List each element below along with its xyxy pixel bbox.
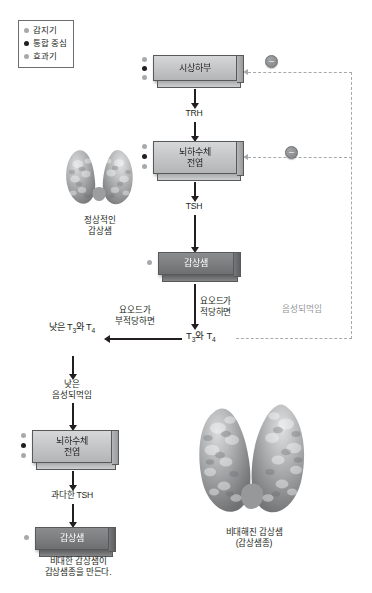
trh-label: TRH: [164, 108, 224, 119]
feedback-line-mid: [248, 157, 352, 158]
hypothalamus-effector-dot-icon: [142, 75, 147, 80]
thyroid2-effector-dot-icon: [24, 535, 29, 540]
legend-label-integration-center: 통합 중심: [33, 39, 66, 48]
feedback-line-bottom: [236, 338, 352, 339]
thyroid2-side-face: [109, 527, 116, 552]
iodine-adequate-line2: 적당하면: [200, 307, 262, 318]
pituitary2-node[interactable]: 뇌하수체 전엽: [32, 430, 112, 463]
legend: 감지기 통합 중심 효과기: [18, 20, 74, 68]
goiter-caption-line1: 비대한 갑상샘이: [14, 556, 142, 567]
iodine-adequate-label: 요오드가 적당하면: [200, 296, 262, 317]
legend-item-effector: 효과기: [24, 50, 69, 63]
negative-feedback-label: 음성되먹임: [258, 304, 346, 315]
pituitary-effector-dot-icon: [142, 164, 147, 169]
feedback-line-right: [351, 72, 352, 339]
pituitary2-sensor-dot-icon: [21, 433, 26, 438]
tsh-label: TSH: [164, 201, 224, 212]
low-negative-feedback-line2: 음성되먹임: [36, 390, 108, 401]
excess-tsh-label: 과다한 TSH: [32, 490, 112, 501]
low-negative-feedback-label: 낮은 음성되먹임: [36, 379, 108, 400]
normal-thyroid-caption-line2: 갑상샘: [52, 226, 148, 237]
thyroid-side-face: [234, 252, 241, 277]
hypothalamus-side-face: [237, 55, 244, 83]
hypothalamus-integration-dot-icon: [142, 66, 147, 71]
pituitary-sensor-dot-icon: [142, 144, 147, 149]
enlarged-thyroid-illustration: [196, 400, 312, 528]
pituitary2-effector-dot-icon: [21, 453, 26, 458]
low-t3t4-label: 낮은 T3와 T4: [38, 322, 106, 336]
pituitary-side-face: [237, 141, 244, 176]
enlarged-thyroid-caption-line1: 비대해진 갑상샘: [190, 527, 318, 538]
effector-marker-icon: [24, 54, 29, 59]
hypothalamus-sensor-dot-icon: [142, 57, 147, 62]
pituitary2-label-line2: 전엽: [64, 447, 80, 458]
low-negative-feedback-line1: 낮은: [36, 379, 108, 390]
pituitary-integration-dot-icon: [142, 154, 147, 159]
thyroid-effector-dot-icon: [147, 260, 152, 265]
normal-thyroid-caption: 정상적인 갑상샘: [52, 215, 148, 236]
thyroid-node[interactable]: 갑상샘: [158, 252, 234, 275]
pituitary2-bottom-face: [36, 463, 116, 470]
iodine-inadequate-label: 요오드가 부적당하면: [96, 305, 174, 326]
t3t4-label: T3와 T4: [186, 331, 250, 345]
hypothalamus-label: 시상하부: [153, 55, 237, 81]
pituitary2-label-line1: 뇌하수체: [56, 436, 87, 447]
enlarged-thyroid-caption-line2: (갑상샘종): [190, 538, 318, 549]
legend-label-sensor: 감지기: [33, 26, 56, 35]
thyroid-bottom-face: [162, 275, 238, 282]
integration-center-marker-icon: [24, 41, 29, 46]
hypothalamus-bottom-face: [157, 81, 241, 88]
pituitary2-integration-dot-icon: [21, 443, 26, 448]
thyroid-label: 갑상샘: [158, 252, 234, 275]
iodine-inadequate-line2: 부적당하면: [96, 316, 174, 327]
goiter-caption-line2: 갑상샘종을 만든다.: [14, 567, 142, 578]
pituitary2-label: 뇌하수체 전엽: [32, 430, 112, 463]
enlarged-thyroid-caption: 비대해진 갑상샘 (갑상샘종): [190, 527, 318, 548]
thyroid2-node[interactable]: 갑상샘: [35, 527, 109, 550]
iodine-adequate-line1: 요오드가: [200, 296, 262, 307]
normal-thyroid-illustration: [62, 148, 138, 214]
normal-thyroid-caption-line1: 정상적인: [52, 215, 148, 226]
thyroid2-label: 갑상샘: [35, 527, 109, 550]
pituitary-bottom-face: [157, 174, 241, 181]
iodine-inadequate-line1: 요오드가: [96, 305, 174, 316]
legend-label-effector: 효과기: [33, 52, 56, 61]
minus-sign-hypothalamus-icon: –: [265, 55, 278, 68]
hypothalamus-node[interactable]: 시상하부: [153, 55, 237, 81]
pituitary-label-line1: 뇌하수체: [179, 147, 210, 158]
legend-item-sensor: 감지기: [24, 24, 69, 37]
feedback-line-top: [248, 72, 352, 73]
pituitary-node[interactable]: 뇌하수체 전엽: [153, 141, 237, 174]
minus-sign-pituitary-icon: –: [285, 146, 298, 159]
pituitary2-side-face: [112, 430, 119, 465]
sensor-marker-icon: [24, 28, 29, 33]
pituitary-label-line2: 전엽: [187, 158, 203, 169]
legend-item-integration-center: 통합 중심: [24, 37, 69, 50]
pituitary-label: 뇌하수체 전엽: [153, 141, 237, 174]
goiter-caption: 비대한 갑상샘이 갑상샘종을 만든다.: [14, 556, 142, 577]
